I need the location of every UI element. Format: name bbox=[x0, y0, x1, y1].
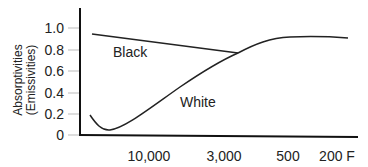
ytick-2: 0.4 bbox=[45, 85, 65, 101]
label-black: Black bbox=[113, 44, 148, 60]
xtick-1: 3,000 bbox=[206, 148, 241, 164]
ytick-5: 1.0 bbox=[45, 20, 65, 36]
ylabel-line1: Absorptivities bbox=[11, 44, 25, 115]
ytick-4: 0.8 bbox=[45, 42, 65, 58]
ylabel-line2: (Emissivities) bbox=[24, 45, 38, 116]
xtick-0: 10,000 bbox=[128, 148, 171, 164]
label-white: White bbox=[180, 94, 216, 110]
chart: 0 0.2 0.4 0.6 0.8 1.0 Absorptivities (Em… bbox=[0, 0, 368, 167]
ytick-0: 0 bbox=[56, 127, 64, 143]
xtick-2: 500 bbox=[276, 148, 300, 164]
x-axis bbox=[79, 135, 358, 137]
y-ticks bbox=[68, 28, 79, 135]
ytick-1: 0.2 bbox=[45, 106, 65, 122]
xtick-3: 200 F bbox=[319, 148, 355, 164]
ytick-3: 0.6 bbox=[45, 63, 65, 79]
